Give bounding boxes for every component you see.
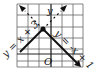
arrow-up-right-icon bbox=[60, 5, 67, 12]
vertex-point bbox=[40, 26, 45, 31]
arrow-up-left-icon bbox=[19, 5, 26, 12]
y-axis-label: y bbox=[46, 5, 53, 16]
origin-label: O bbox=[44, 56, 52, 67]
graph-canvas: y O y = x + 3 y = -x + 1 bbox=[0, 0, 95, 79]
